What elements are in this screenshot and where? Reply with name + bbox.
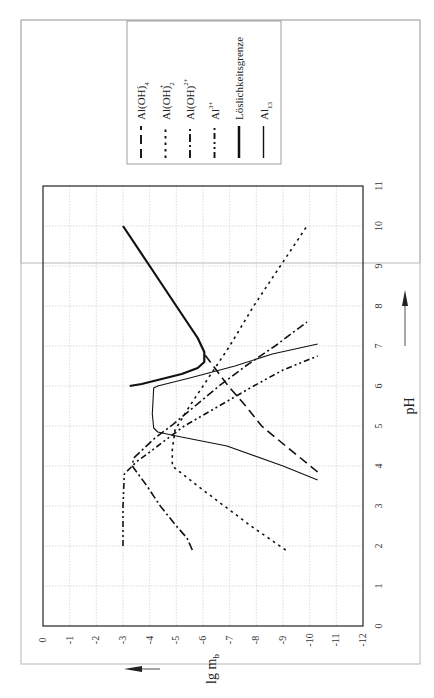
y-tick-label: -10 xyxy=(304,633,315,646)
y-tick-label: -7 xyxy=(224,636,235,644)
x-axis-arrow-icon xyxy=(402,290,408,306)
y-tick-label: -12 xyxy=(357,633,368,646)
legend: Al(OH)4-Al(OH)2+Al(OH)2+Al3+Löslichkeits… xyxy=(127,21,281,164)
series-line xyxy=(204,354,317,472)
y-tick-label: -5 xyxy=(170,636,181,644)
x-tick-label: 11 xyxy=(373,181,384,191)
x-tick-label: 9 xyxy=(373,264,384,269)
x-axis-title: pH xyxy=(402,290,417,415)
y-tick-label: -3 xyxy=(117,636,128,644)
x-tick-label: 6 xyxy=(373,384,384,389)
y-tick-label: -9 xyxy=(277,636,288,644)
y-tick-label: -1 xyxy=(64,636,75,644)
x-tick-label: 1 xyxy=(373,584,384,589)
x-tick-label: 8 xyxy=(373,304,384,309)
y-tick-label: -11 xyxy=(330,634,341,647)
y-tick-label: -6 xyxy=(197,636,208,644)
svg-text:lg mb: lg mb xyxy=(204,654,221,684)
y-tick-label: -2 xyxy=(90,636,101,644)
series-line xyxy=(172,226,307,550)
y-axis-arrow-icon xyxy=(124,666,142,672)
y-axis-title: lg mb xyxy=(124,654,221,684)
y-tick-label: -4 xyxy=(144,636,155,644)
x-tick-label: 0 xyxy=(373,624,384,629)
tick-labels: 0-1-2-3-4-5-6-7-8-9-10-11-12012345678910… xyxy=(37,181,384,646)
x-tick-label: 4 xyxy=(373,464,384,469)
legend-label: Löslichkeitsgrenze xyxy=(233,37,245,120)
x-tick-label: 3 xyxy=(373,504,384,509)
y-tick-label: 0 xyxy=(37,638,48,643)
x-tick-label: 5 xyxy=(373,424,384,429)
series-line xyxy=(132,322,307,550)
grid xyxy=(43,186,363,626)
x-tick-label: 7 xyxy=(373,344,384,349)
chart: 0-1-2-3-4-5-6-7-8-9-10-11-12012345678910… xyxy=(0,0,434,698)
y-tick-label: -8 xyxy=(250,636,261,644)
series-layer xyxy=(123,226,318,550)
svg-text:pH: pH xyxy=(402,397,417,414)
series-line xyxy=(152,344,317,480)
legend-box xyxy=(127,21,281,164)
x-tick-label: 2 xyxy=(373,544,384,549)
x-tick-label: 10 xyxy=(373,221,384,231)
